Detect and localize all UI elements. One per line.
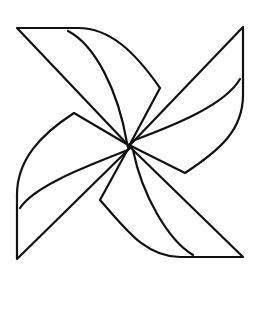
top-right-blade [131, 27, 243, 173]
pinwheel-center-pin [127, 144, 132, 149]
top-left-blade [17, 28, 160, 146]
top-left-blade-outline [17, 28, 160, 146]
pinwheel-blades [17, 27, 243, 259]
bottom-blade-inner-curve [133, 150, 193, 255]
bottom-blade [100, 148, 243, 257]
pinwheel-svg [0, 0, 261, 323]
pinwheel-drawing: Black outline drawing of a four-bladed p… [0, 0, 261, 323]
left-blade-outline [17, 113, 130, 259]
bottom-blade-outline [100, 148, 243, 257]
left-blade [17, 113, 130, 259]
top-right-blade-outline [131, 27, 243, 173]
